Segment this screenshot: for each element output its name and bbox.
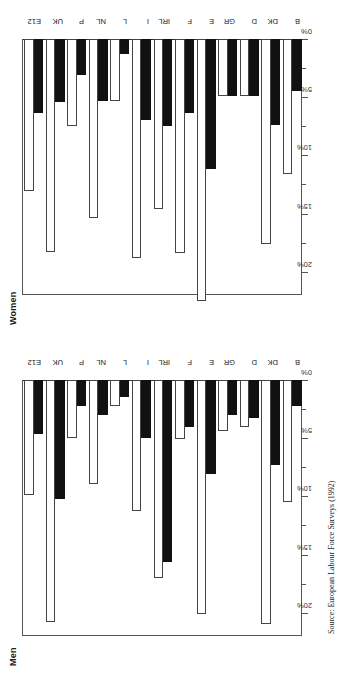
bar-black-series (141, 380, 150, 438)
bar-white-series (110, 39, 119, 101)
bar-white-series (175, 380, 184, 439)
bar-black-series (77, 380, 86, 406)
bar-black-series (271, 380, 280, 465)
bar-white-series (240, 380, 249, 427)
axis-tick-minor (302, 584, 306, 585)
category-label: P (79, 17, 84, 26)
bar-black-series (120, 380, 129, 397)
bar-black-series (77, 39, 86, 75)
bar-white-series (240, 39, 249, 96)
bar-row (24, 39, 43, 294)
bar-white-series (197, 380, 206, 614)
category-label: D (251, 17, 256, 26)
axis-tick-minor (302, 184, 306, 185)
bar-row (283, 380, 302, 635)
category-label: DK (268, 17, 278, 26)
bar-white-series (46, 380, 55, 622)
bar-rows-women (23, 39, 302, 294)
category-label: P (79, 358, 84, 367)
axis-tick-label: 15% (297, 202, 312, 211)
category-label: D (251, 358, 256, 367)
category-label: DK (268, 358, 278, 367)
category-label: F (187, 17, 192, 26)
category-label: E12 (28, 358, 41, 367)
bar-black-series (249, 39, 258, 96)
category-label: E (209, 17, 214, 26)
bar-row (261, 380, 280, 635)
axis-tick-major (302, 438, 308, 439)
category-label: IRL (159, 17, 171, 26)
axis-tick-label: 5% (301, 426, 312, 435)
bar-black-series (292, 39, 301, 91)
chart-title-men: Men (8, 647, 18, 666)
bar-white-series (89, 380, 98, 484)
axis-tick-major (302, 155, 308, 156)
bar-black-series (206, 39, 215, 169)
bar-white-series (218, 380, 227, 431)
bar-black-series (163, 39, 172, 126)
bar-white-series (218, 39, 227, 96)
bar-row (197, 39, 216, 294)
bar-white-series (175, 39, 184, 253)
axis-tick-major (302, 496, 308, 497)
axis-tick-label: 20% (297, 260, 312, 269)
bar-white-series (89, 39, 98, 218)
bar-row (240, 39, 259, 294)
axis-tick-major (302, 214, 308, 215)
category-label: UK (52, 17, 62, 26)
axis-tick-label: 0% (301, 27, 312, 36)
axis-tick-major (302, 555, 308, 556)
figure-canvas: Men 0%5%10%15%20% BDKDGREFIRLILNLPUKE12 … (0, 0, 338, 682)
category-label: B (295, 358, 300, 367)
chart-panel-men: Men 0%5%10%15%20% BDKDGREFIRLILNLPUKE12 … (0, 341, 338, 682)
axis-tick-label: 0% (301, 368, 312, 377)
bar-white-series (283, 39, 292, 174)
category-label: GR (224, 17, 235, 26)
bar-row (240, 380, 259, 635)
bar-black-series (185, 39, 194, 113)
category-label: F (187, 358, 192, 367)
axis-tick-minor (302, 409, 306, 410)
bar-black-series (249, 380, 258, 418)
bar-white-series (110, 380, 119, 406)
category-label: GR (224, 358, 235, 367)
bar-white-series (283, 380, 292, 502)
bar-black-series (34, 39, 43, 113)
category-label: I (147, 358, 149, 367)
axis-tick-label: 15% (297, 543, 312, 552)
category-label: NL (96, 358, 106, 367)
bar-black-series (185, 380, 194, 427)
axis-tick-label: 10% (297, 143, 312, 152)
category-label: UK (52, 358, 62, 367)
bar-rows-men (23, 380, 302, 635)
bar-row (132, 380, 151, 635)
bar-row (110, 39, 129, 294)
bar-black-series (141, 39, 150, 120)
bar-row (67, 380, 86, 635)
bar-row (67, 39, 86, 294)
category-label: NL (96, 17, 106, 26)
bar-black-series (120, 39, 129, 54)
bar-black-series (34, 380, 43, 434)
category-label: I (147, 17, 149, 26)
bar-black-series (228, 39, 237, 96)
axis-tick-minor (302, 68, 306, 69)
bar-black-series (163, 380, 172, 562)
bar-row (218, 380, 237, 635)
chart-title-women: Women (8, 292, 18, 325)
bar-black-series (55, 39, 64, 102)
category-label: L (123, 358, 127, 367)
axis-tick-major (302, 380, 308, 381)
bar-white-series (261, 380, 270, 624)
bar-white-series (154, 39, 163, 209)
axis-tick-major (302, 97, 308, 98)
bar-row (175, 380, 194, 635)
bar-white-series (46, 39, 55, 252)
bar-black-series (55, 380, 64, 499)
bar-row (175, 39, 194, 294)
plot-area-men (22, 380, 302, 636)
bar-row (283, 39, 302, 294)
bar-black-series (206, 380, 215, 474)
bar-white-series (261, 39, 270, 244)
axis-tick-minor (302, 243, 306, 244)
